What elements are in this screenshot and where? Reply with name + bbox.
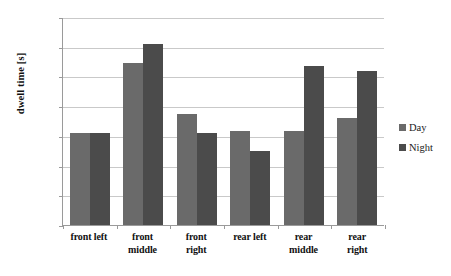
bar-night: [143, 44, 163, 225]
x-axis-label: rear left: [223, 231, 277, 256]
bar-group: [224, 18, 278, 225]
bar-group: [170, 18, 224, 225]
x-axis-tick-mark: [278, 225, 279, 229]
bar-night: [90, 133, 110, 225]
x-axis-label: frontmiddle: [116, 231, 170, 256]
chart-legend: Day Night: [399, 122, 433, 153]
x-axis-tick-mark: [224, 225, 225, 229]
x-axis-labels: front leftfrontmiddlefrontrightrear left…: [62, 231, 384, 256]
bar-night: [250, 151, 270, 225]
bar-day: [123, 63, 143, 225]
bar-day: [177, 114, 197, 225]
x-axis-tick-mark: [117, 225, 118, 229]
bar-group: [331, 18, 385, 225]
bar-night: [357, 71, 377, 226]
legend-item-night: Night: [399, 142, 433, 153]
bar-group: [277, 18, 331, 225]
x-axis-label: front left: [62, 231, 116, 256]
legend-label-night: Night: [409, 142, 433, 153]
legend-label-day: Day: [409, 122, 427, 133]
x-axis-tick-mark: [63, 225, 64, 229]
x-axis-tick-mark: [331, 225, 332, 229]
legend-item-day: Day: [399, 122, 433, 133]
bar-day: [70, 133, 90, 225]
x-axis-tick-mark: [385, 225, 386, 229]
x-axis-label: frontright: [169, 231, 223, 256]
bar-night: [304, 66, 324, 225]
bar-day: [284, 131, 304, 225]
bar-night: [197, 133, 217, 225]
x-axis-label: rearright: [330, 231, 384, 256]
bar-groups: [63, 18, 384, 225]
bar-chart: dwell time [s] 0,70,60,50,40,30,20,10 fr…: [0, 0, 451, 276]
y-axis-title: dwell time [s]: [15, 14, 26, 154]
bar-day: [230, 131, 250, 225]
x-axis-label: rearmiddle: [277, 231, 331, 256]
night-swatch-icon: [399, 144, 406, 151]
bar-group: [63, 18, 117, 225]
x-axis-tick-mark: [170, 225, 171, 229]
bar-group: [117, 18, 171, 225]
bar-day: [337, 118, 357, 225]
day-swatch-icon: [399, 124, 406, 131]
plot-area: 0,70,60,50,40,30,20,10: [62, 18, 384, 226]
